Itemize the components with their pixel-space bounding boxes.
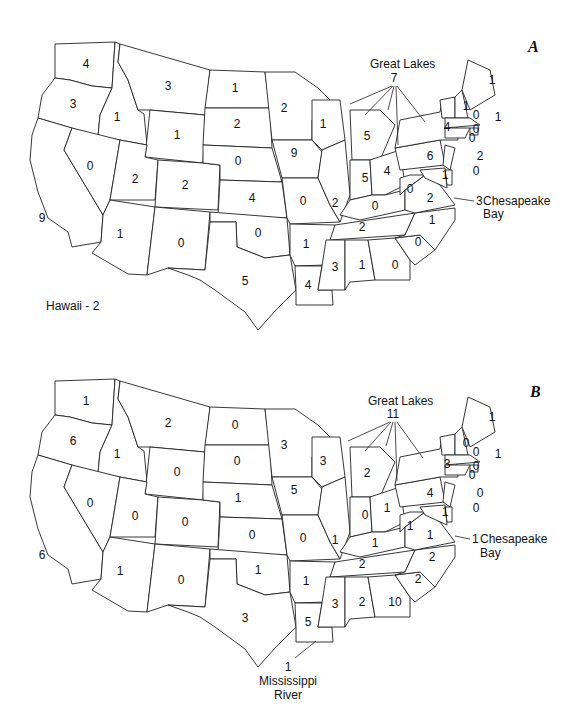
- count-sd: 2: [234, 117, 241, 131]
- mississippi-leader-line: [295, 641, 316, 658]
- chesapeake-label-2: Bay: [483, 207, 504, 221]
- count-nd: 1: [232, 81, 239, 95]
- count-nc: 1: [429, 213, 436, 227]
- count-co: 0: [182, 515, 189, 529]
- count-tx: 5: [242, 274, 249, 288]
- count-ia: 5: [291, 483, 298, 497]
- panel-label: A: [527, 38, 539, 55]
- count-oh: 4: [384, 164, 391, 178]
- great-lakes-label: Great Lakes: [370, 57, 435, 71]
- count-ri: 1: [495, 110, 502, 124]
- count-wv: 0: [407, 182, 414, 196]
- count-ok: 1: [255, 563, 262, 577]
- mississippi-count: 1: [285, 660, 292, 674]
- count-ga: 0: [392, 258, 399, 272]
- count-vt: 0: [463, 436, 470, 450]
- count-in: 5: [362, 171, 369, 185]
- count-me: 1: [489, 410, 496, 424]
- state-nj: [443, 482, 455, 507]
- count-wa: 1: [83, 394, 90, 408]
- count-wy: 0: [174, 465, 181, 479]
- great-lakes-label: Great Lakes: [368, 394, 433, 408]
- count-sd: 0: [234, 454, 241, 468]
- count-nv: 0: [87, 496, 94, 510]
- count-al: 1: [359, 258, 366, 272]
- count-wv: 1: [407, 519, 414, 533]
- count-wa: 4: [83, 57, 90, 71]
- count-ga: 10: [388, 595, 402, 609]
- panel-label: B: [529, 383, 541, 400]
- count-nj: 2: [477, 149, 484, 163]
- chesapeake-label: Chesapeake: [483, 194, 551, 208]
- count-mo: 0: [300, 531, 307, 545]
- count-nh: 0: [473, 108, 480, 122]
- count-nm: 0: [178, 236, 185, 250]
- count-ky: 0: [372, 199, 379, 213]
- count-la: 4: [305, 278, 312, 292]
- count-or: 6: [70, 434, 77, 448]
- count-nd: 0: [232, 418, 239, 432]
- count-in: 0: [362, 508, 369, 522]
- count-ut: 0: [132, 509, 139, 523]
- count-pa: 6: [427, 149, 434, 163]
- count-de: 0: [473, 501, 480, 515]
- state-mi: [350, 110, 395, 160]
- count-ct: 0: [469, 468, 476, 482]
- count-ky: 1: [372, 536, 379, 550]
- count-tn: 2: [359, 557, 366, 571]
- state-vt: [440, 97, 455, 118]
- count-ms: 3: [332, 597, 339, 611]
- great-lakes-count: 7: [391, 71, 398, 85]
- count-il: 1: [332, 533, 339, 547]
- count-mi: 2: [364, 466, 371, 480]
- count-il: 2: [332, 196, 339, 210]
- chesapeake-leader-line: [455, 536, 470, 539]
- count-nm: 0: [178, 573, 185, 587]
- count-ca: 6: [39, 548, 46, 562]
- state-shapes: [30, 379, 495, 667]
- count-ny: 4: [444, 120, 451, 134]
- count-ks: 4: [249, 191, 256, 205]
- count-mn: 2: [281, 101, 288, 115]
- count-nv: 0: [87, 159, 94, 173]
- chesapeake-count: 1: [472, 532, 479, 546]
- chesapeake-count: 3: [476, 194, 483, 208]
- count-nc: 2: [429, 550, 436, 564]
- count-wi: 3: [320, 454, 327, 468]
- count-sc: 0: [415, 235, 422, 249]
- count-ny: 3: [444, 457, 451, 471]
- count-ri: 1: [495, 447, 502, 461]
- count-az: 1: [117, 227, 124, 241]
- count-tn: 2: [359, 220, 366, 234]
- count-va: 2: [427, 191, 434, 205]
- mississippi-label: Mississippi: [259, 674, 317, 688]
- count-wi: 1: [320, 117, 327, 131]
- count-wy: 1: [174, 128, 181, 142]
- us-map-a: 4391031221012040529014125540231001206410…: [0, 0, 570, 361]
- count-az: 1: [117, 564, 124, 578]
- count-md: 1: [442, 505, 449, 519]
- count-ms: 3: [332, 260, 339, 274]
- state-nj: [443, 145, 455, 170]
- count-de: 0: [473, 164, 480, 178]
- count-mo: 0: [300, 194, 307, 208]
- count-ok: 0: [255, 226, 262, 240]
- count-ca: 9: [39, 211, 46, 225]
- count-ar: 1: [303, 574, 310, 588]
- count-or: 3: [70, 97, 77, 111]
- chesapeake-label: Chesapeake: [480, 532, 548, 546]
- count-vt: 1: [463, 99, 470, 113]
- count-la: 5: [305, 615, 312, 629]
- count-mn: 3: [281, 438, 288, 452]
- count-id: 1: [114, 447, 121, 461]
- count-tx: 3: [242, 611, 249, 625]
- count-co: 2: [182, 178, 189, 192]
- great-lakes-count: 11: [387, 407, 400, 421]
- state-mi: [350, 447, 395, 497]
- count-sc: 2: [415, 572, 422, 586]
- count-pa: 4: [427, 486, 434, 500]
- chesapeake-label-2: Bay: [480, 546, 501, 560]
- state-vt: [440, 434, 455, 455]
- count-ia: 9: [291, 146, 298, 160]
- count-va: 1: [427, 528, 434, 542]
